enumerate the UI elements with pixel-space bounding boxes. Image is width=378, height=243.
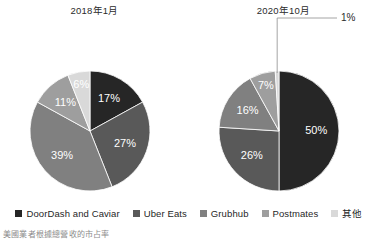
pie-slice-label: 11%: [55, 96, 76, 108]
legend-label: DoorDash and Caviar: [26, 208, 119, 219]
legend-item[interactable]: Postmates: [262, 208, 319, 219]
legend-label: Uber Eats: [144, 208, 187, 219]
legend-swatch-icon: [200, 210, 207, 217]
legend-swatch-icon: [262, 210, 269, 217]
legend-item[interactable]: Uber Eats: [133, 208, 187, 219]
chart-caption: 美國業者根據總營收的市占率: [3, 228, 110, 239]
pie-slice-label: 1%: [341, 12, 356, 23]
legend-label: Postmates: [273, 208, 319, 219]
pie-slice-label: 27%: [114, 137, 136, 149]
pie-chart-area: 2018年1月 17%27%39%11%6% 2020年10月 50%26%16…: [0, 0, 378, 202]
legend-item[interactable]: 其他: [331, 206, 362, 220]
pie-slice-label: 50%: [305, 124, 327, 136]
legend-item[interactable]: DoorDash and Caviar: [15, 208, 119, 219]
pie-slice-label: 16%: [237, 104, 259, 116]
pie-right: 50%26%16%7%1%: [189, 0, 378, 202]
pie-slice-label: 7%: [258, 79, 274, 91]
legend-item[interactable]: Grubhub: [200, 208, 249, 219]
chart-panel-2020: 2020年10月 50%26%16%7%1%: [189, 0, 378, 202]
chart-legend: DoorDash and CaviarUber EatsGrubhubPostm…: [0, 204, 378, 222]
chart-panel-2018: 2018年1月 17%27%39%11%6%: [0, 0, 189, 202]
pie-slice-label: 26%: [241, 149, 263, 161]
legend-label: 其他: [342, 206, 362, 220]
pie-slice-label: 39%: [51, 149, 73, 161]
legend-swatch-icon: [133, 210, 140, 217]
pie-slice-label: 17%: [98, 92, 120, 104]
pie-right-wrap: 50%26%16%7%1%: [189, 0, 378, 202]
pie-slice-label: 6%: [73, 78, 89, 90]
legend-label: Grubhub: [211, 208, 249, 219]
callout-leader-line: [277, 18, 337, 73]
legend-swatch-icon: [15, 210, 22, 217]
legend-swatch-icon: [331, 210, 338, 217]
pie-left-wrap: 17%27%39%11%6%: [0, 0, 189, 202]
pie-left: 17%27%39%11%6%: [0, 0, 189, 202]
